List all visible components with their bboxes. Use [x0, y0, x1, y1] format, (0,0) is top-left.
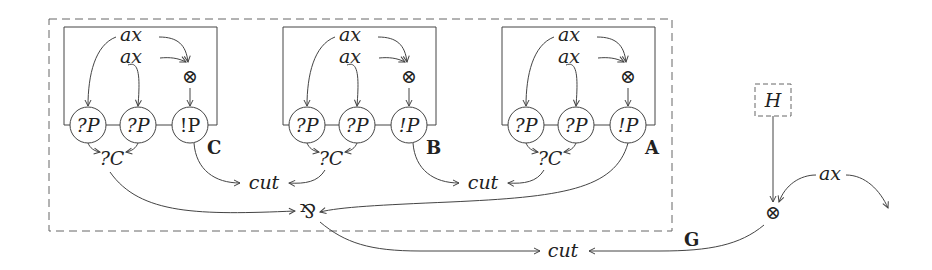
contraction-node: ?C	[100, 147, 125, 169]
subnet-label: C	[207, 137, 221, 158]
external-ax: ax	[819, 162, 841, 184]
par-node: ⅋	[300, 200, 317, 222]
contraction-node: ?C	[538, 147, 563, 169]
tensor-icon: ⊗	[401, 65, 417, 87]
svg-text:?P: ?P	[346, 114, 370, 136]
subnet-b: ax ax ⊗ ?P ?P !P B ?C	[283, 23, 441, 169]
external-box-label: H	[764, 89, 782, 111]
external-tensor-icon: ⊗	[765, 201, 781, 223]
ax-top: ax	[120, 23, 142, 45]
edge	[508, 170, 544, 183]
ax-second: ax	[120, 45, 142, 67]
edge	[160, 58, 186, 62]
edge	[128, 64, 139, 106]
edge	[88, 37, 116, 106]
subnet-label: A	[644, 137, 660, 158]
outer-box-label: G	[684, 229, 699, 250]
svg-text:?P: ?P	[296, 114, 320, 136]
svg-text:?P: ?P	[127, 114, 151, 136]
ax-second: ax	[558, 45, 580, 67]
edge	[589, 225, 764, 251]
ax-second: ax	[339, 45, 361, 67]
svg-text:!P: !P	[399, 114, 421, 136]
edge	[320, 222, 540, 251]
edge	[779, 175, 816, 202]
edge	[289, 170, 325, 183]
cut-node-ba: cut	[468, 171, 499, 193]
ax-top: ax	[558, 23, 580, 45]
contraction-node: ?C	[319, 147, 344, 169]
subnet-label: B	[426, 137, 441, 158]
subnet-a: ax ax ⊗ ?P ?P !P A ?C	[502, 23, 660, 169]
ax-top: ax	[339, 23, 361, 45]
svg-text:?P: ?P	[515, 114, 539, 136]
cut-node-cb: cut	[249, 171, 280, 193]
svg-text:!P: !P	[180, 114, 201, 136]
tensor-icon: ⊗	[620, 65, 636, 87]
svg-text:?P: ?P	[565, 114, 589, 136]
tensor-icon: ⊗	[182, 65, 198, 87]
edge	[846, 175, 888, 208]
cut-node-bottom: cut	[548, 239, 579, 261]
svg-text:?P: ?P	[77, 114, 101, 136]
svg-text:!P: !P	[618, 114, 640, 136]
proof-net-diagram: G ax ax ⊗ ?P ?P !P C ?C ax ax ⊗	[0, 0, 932, 270]
subnet-c: ax ax ⊗ ?P ?P !P C ?C	[64, 23, 221, 169]
